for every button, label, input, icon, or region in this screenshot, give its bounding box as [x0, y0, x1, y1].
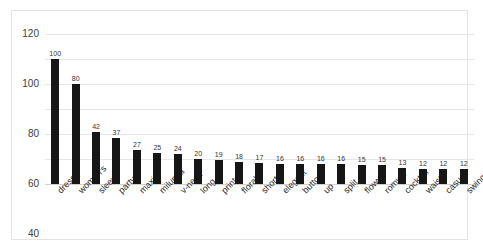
bar-value-label: 80 — [65, 75, 85, 82]
y-axis-tick-label: 60 — [28, 179, 39, 189]
bar[interactable] — [276, 164, 284, 184]
bar-value-label: 12 — [454, 160, 474, 167]
y-axis-tick-label: 40 — [28, 229, 39, 239]
bar-value-label: 20 — [188, 150, 208, 157]
bar-value-label: 19 — [208, 151, 228, 158]
plot-area: 020406080100120 100dress80women's42sleev… — [45, 34, 474, 184]
bar[interactable] — [72, 84, 80, 184]
bar-value-label: 37 — [106, 129, 126, 136]
bar[interactable] — [419, 169, 427, 184]
y-axis-tick-label: 100 — [22, 79, 39, 89]
bar[interactable] — [51, 59, 59, 184]
bar-value-label: 100 — [45, 50, 65, 57]
bar[interactable] — [174, 154, 182, 184]
bar-value-label: 18 — [229, 153, 249, 160]
bar[interactable] — [358, 165, 366, 184]
bar-value-label: 13 — [392, 159, 412, 166]
bar[interactable] — [398, 168, 406, 184]
bar-chart-figure: 020406080100120 100dress80women's42sleev… — [11, 10, 468, 240]
bar[interactable] — [255, 163, 263, 184]
y-axis-tick-label: 120 — [22, 29, 39, 39]
bar-value-label: 12 — [433, 160, 453, 167]
bar[interactable] — [337, 164, 345, 184]
bar-value-label: 15 — [372, 156, 392, 163]
bar[interactable] — [317, 164, 325, 184]
bar[interactable] — [296, 164, 304, 184]
bar-value-label: 42 — [86, 123, 106, 130]
bar[interactable] — [439, 169, 447, 184]
bar-value-label: 16 — [331, 155, 351, 162]
bar-value-label: 25 — [147, 144, 167, 151]
bar[interactable] — [112, 138, 120, 184]
bar[interactable] — [215, 160, 223, 184]
x-axis-category-label: up — [322, 182, 335, 195]
bar-value-label: 12 — [413, 160, 433, 167]
bar-value-label: 16 — [290, 155, 310, 162]
bar[interactable] — [153, 153, 161, 184]
bar-value-label: 17 — [249, 154, 269, 161]
bar[interactable] — [460, 169, 468, 184]
bar-value-label: 16 — [311, 155, 331, 162]
bar-value-label: 24 — [168, 145, 188, 152]
bar-value-label: 27 — [127, 141, 147, 148]
bar[interactable] — [235, 162, 243, 185]
bar[interactable] — [194, 159, 202, 184]
bar[interactable] — [133, 150, 141, 184]
bar-value-label: 16 — [270, 155, 290, 162]
bar[interactable] — [378, 165, 386, 184]
bar-value-label: 15 — [351, 156, 371, 163]
bar[interactable] — [92, 132, 100, 185]
bars-layer: 100dress80women's42sleeve37party27maxi25… — [45, 34, 474, 184]
y-axis-tick-label: 80 — [28, 129, 39, 139]
